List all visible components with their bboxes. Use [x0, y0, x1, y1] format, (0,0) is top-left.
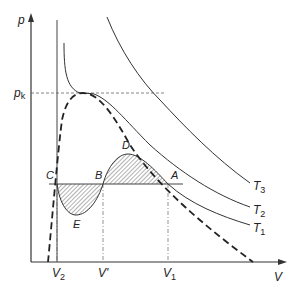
- point-d-label: D: [122, 139, 130, 151]
- t2-label: T2: [253, 203, 265, 219]
- x-axis-arrow-icon: [278, 259, 287, 265]
- t1-label: T1: [253, 221, 265, 237]
- v2-label: V2: [52, 266, 65, 282]
- pk-label: pk: [13, 86, 26, 101]
- vprime-label: V': [98, 266, 109, 280]
- point-b-label: B: [95, 169, 102, 181]
- v1-label: V1: [163, 266, 176, 282]
- point-a-label: A: [170, 169, 178, 181]
- pv-diagram: p V pk V2 V' V1 A B C D E T3 T2 T1: [0, 0, 295, 289]
- point-e-label: E: [73, 218, 81, 230]
- point-c-label: C: [46, 169, 54, 181]
- t3-label: T3: [253, 179, 265, 195]
- y-axis-label: p: [17, 13, 25, 27]
- x-axis-label: V: [274, 270, 283, 284]
- y-axis-arrow-icon: [28, 13, 34, 22]
